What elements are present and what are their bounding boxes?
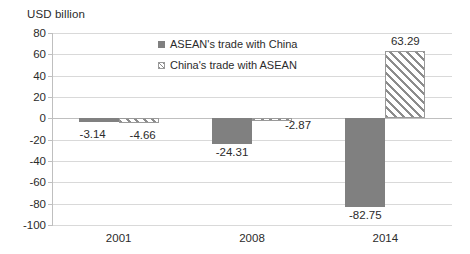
data-label-2001-series-2: -4.66 xyxy=(130,129,156,141)
bar-2001-series-2[interactable] xyxy=(119,118,159,123)
data-label-2008-series-2: -2.87 xyxy=(285,119,311,131)
y-axis-tick-label: 60 xyxy=(0,48,46,60)
y-axis-tick xyxy=(48,54,53,55)
y-axis-tick xyxy=(48,182,53,183)
legend-label-series-2: China's trade with ASEAN xyxy=(170,60,297,71)
bar-2008-series-1[interactable] xyxy=(212,118,252,144)
x-axis-label-2014: 2014 xyxy=(373,232,399,244)
y-axis-tick-label: -40 xyxy=(0,155,46,167)
y-axis-tick xyxy=(48,33,53,34)
y-axis-tick-label: -60 xyxy=(0,176,46,188)
legend-item-series-1[interactable]: ASEAN's trade with China xyxy=(158,36,297,52)
gridline xyxy=(52,182,452,183)
legend: ASEAN's trade with China China's trade w… xyxy=(158,36,297,78)
legend-label-series-1: ASEAN's trade with China xyxy=(170,39,297,50)
y-axis-line xyxy=(52,33,53,225)
x-axis-label-2008: 2008 xyxy=(239,232,265,244)
y-axis-tick-label: -100 xyxy=(0,219,46,231)
bar-2014-series-1[interactable] xyxy=(345,118,385,206)
gridline xyxy=(52,140,452,141)
y-axis-tick xyxy=(48,140,53,141)
y-axis-tick xyxy=(48,118,53,119)
legend-swatch-solid-icon xyxy=(158,41,165,48)
bar-2001-series-1[interactable] xyxy=(79,118,119,121)
data-label-2001-series-1: -3.14 xyxy=(80,128,106,140)
y-axis-tick-label: 80 xyxy=(0,27,46,39)
bar-2014-series-2[interactable] xyxy=(385,51,425,119)
y-axis-tick xyxy=(48,161,53,162)
y-axis-tick-label: 20 xyxy=(0,91,46,103)
y-axis-tick xyxy=(48,225,53,226)
data-label-2014-series-2: 63.29 xyxy=(391,35,420,47)
y-axis-tick xyxy=(48,76,53,77)
legend-swatch-hatch-icon xyxy=(158,62,165,69)
y-axis-tick-label: 0 xyxy=(0,112,46,124)
x-axis-label-2001: 2001 xyxy=(106,232,132,244)
data-label-2014-series-1: -82.75 xyxy=(349,209,382,221)
gridline xyxy=(52,225,452,226)
bar-chart: USD billion 806040200-20-40-60-80-100 -3… xyxy=(0,0,470,254)
y-axis-tick xyxy=(48,204,53,205)
legend-item-series-2[interactable]: China's trade with ASEAN xyxy=(158,57,297,73)
data-label-2008-series-1: -24.31 xyxy=(216,146,249,158)
y-axis-tick-label: 40 xyxy=(0,70,46,82)
y-axis-tick-label: -20 xyxy=(0,134,46,146)
y-axis-tick xyxy=(48,97,53,98)
y-axis-tick-label: -80 xyxy=(0,198,46,210)
gridline xyxy=(52,161,452,162)
y-axis-title: USD billion xyxy=(27,8,85,20)
gridline xyxy=(52,204,452,205)
